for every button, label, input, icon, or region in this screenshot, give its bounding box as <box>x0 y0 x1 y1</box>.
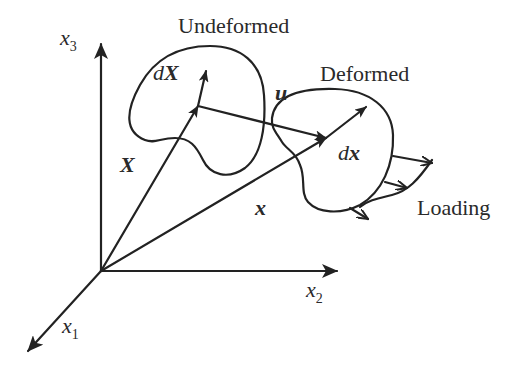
vectors <box>101 71 366 271</box>
dx-line-element <box>326 107 366 138</box>
x-vector-label: x <box>254 195 266 220</box>
deformed-body-outline <box>272 89 393 212</box>
u-vector-label: u <box>275 80 287 105</box>
loading-arrow-3 <box>350 208 368 219</box>
loading-label: Loading <box>417 195 490 220</box>
X-vector-label: X <box>119 152 136 177</box>
x1-axis-label: x1 <box>61 313 79 342</box>
continuum-deformation-diagram: x3 x2 x1 Undeformed Deformed Loading X d… <box>0 0 530 374</box>
loading-arrow-2 <box>385 182 407 188</box>
x-position-vector <box>101 138 326 271</box>
undeformed-label: Undeformed <box>178 13 289 38</box>
x3-axis-label: x3 <box>59 25 77 54</box>
undeformed-body-outline <box>129 46 264 175</box>
coordinate-axes <box>28 44 337 351</box>
dX-vector-label: dX <box>153 60 180 85</box>
dX-line-element <box>198 71 206 106</box>
loading-arrow-1 <box>393 156 432 163</box>
X-position-vector <box>101 106 198 271</box>
deformed-label: Deformed <box>320 61 409 86</box>
x2-axis-label: x2 <box>305 277 323 306</box>
x1-axis <box>28 271 101 351</box>
dx-vector-label: dx <box>338 140 360 165</box>
